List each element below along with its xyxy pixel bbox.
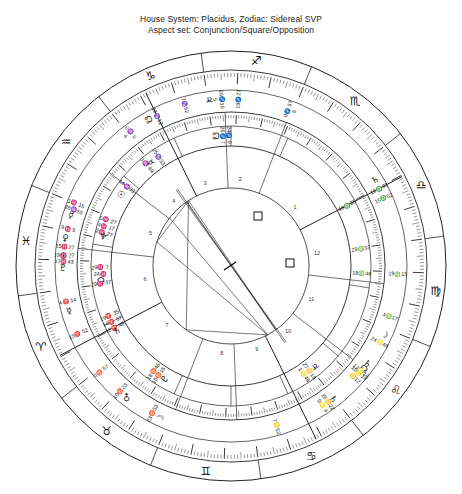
planet-glyph: ☉ <box>115 188 127 201</box>
house-cusp-3 <box>225 112 228 188</box>
outer-label-12-line-2: 4 <box>122 133 129 139</box>
outer-planet-glyph-11: ☿ <box>67 210 76 221</box>
outer-planet-glyph-5: ☽ <box>154 412 167 424</box>
house-number-8: 8 <box>220 350 223 356</box>
inner-label-12-line-1: 19♎35 <box>337 198 357 213</box>
outer-planet-glyph-9: ☉ <box>59 251 68 262</box>
chart-title-block: House System: Placidus, Zodiac: Sidereal… <box>0 14 462 36</box>
inner-planet-glyph-6: ☉ <box>115 188 127 201</box>
planet-glyph: ♂ <box>120 391 133 404</box>
aspect-line <box>170 218 268 335</box>
planet-glyph: ☉ <box>59 251 68 262</box>
planet-glyph: ☽ <box>154 412 167 424</box>
zodiac-sign-aries: ♈ <box>36 340 47 354</box>
zodiac-sign-virgo: ♍ <box>431 284 442 298</box>
outer-label-7-line-1: 15♈ 52 <box>68 327 90 342</box>
inner-label-11-line-1: 29♍37 <box>351 244 371 253</box>
aspect-line <box>186 201 188 330</box>
inner-label-4: 29♓ 37 <box>91 279 112 289</box>
house-number-7: 7 <box>165 322 168 328</box>
house-number-10: 10 <box>285 328 291 334</box>
astrology-chart-page: House System: Placidus, Zodiac: Sidereal… <box>0 0 462 494</box>
planet-glyph: ♀ <box>61 232 70 243</box>
zodiac-sign-capricorn: ♑ <box>145 69 156 83</box>
house-number-11: 11 <box>309 296 315 302</box>
aspect-lines <box>157 189 286 343</box>
house-number-6: 6 <box>143 276 146 282</box>
planet-glyph: ☿ <box>65 305 73 316</box>
outer-label-23: 4♍17 <box>381 311 398 323</box>
outer-label-7: 15♈ 52 <box>68 327 90 342</box>
outer-label-17-line-1: 0♐ 57 <box>282 100 295 119</box>
chart-wheel-svg: ♈♉♊♋♌♍♎♏♐♑♒♓ 123456789101112 26♋220♌ 4♄1… <box>0 44 462 494</box>
title-line-house-system: House System: Placidus, Zodiac: Sidereal… <box>0 14 462 25</box>
aspect-line <box>157 201 189 242</box>
zodiac-sign-sagittarius: ♐ <box>251 54 262 68</box>
house-number-4: 4 <box>172 198 175 204</box>
planet-glyph: ♃ <box>204 95 215 104</box>
house-number-9: 9 <box>255 346 258 352</box>
outer-planet-glyph-6: ♂ <box>120 391 133 404</box>
zodiac-sign-taurus: ♉ <box>101 424 112 438</box>
planet-glyph: ☊ <box>211 132 221 140</box>
inner-label-10: 18♍46 <box>352 270 371 278</box>
outer-label-23-line-1: 4♍17 <box>381 311 398 323</box>
inner-label-12: 19♎35 <box>337 198 357 213</box>
house-cusp-6 <box>78 248 153 257</box>
inner-ring-position-labels: 27♋181♌49♃29♓ 724♓☊18♉4615♉15♇19♈ 3514♈ … <box>91 126 372 385</box>
zodiac-sign-libra: ♎ <box>416 178 427 192</box>
outer-planet-glyph-8: ☿ <box>65 305 73 316</box>
house-cusp-11 <box>293 313 353 359</box>
zodiac-sign-cancer: ♋ <box>306 449 317 463</box>
outer-label-14-line-1: 7♑52 <box>179 97 190 114</box>
outer-label-2: 7♋52 <box>271 418 282 435</box>
outer-label-4: 0♉ 57 <box>92 363 110 379</box>
chart-wheel: ♈♉♊♋♌♍♎♏♐♑♒♓ 123456789101112 26♋220♌ 4♄1… <box>0 44 462 494</box>
inner-label-4-line-1: 29♓ 37 <box>91 279 112 289</box>
outer-label-16: 19♐27 <box>235 90 243 109</box>
zodiac-sign-aquarius: ♒ <box>61 135 72 149</box>
inner-house-cusp-11 <box>323 343 338 356</box>
planet-glyph: ♆ <box>98 231 109 243</box>
planet-glyph: ☿ <box>67 210 76 221</box>
inner-planet-glyph-9: ☊ <box>211 132 221 140</box>
title-line-aspect-set: Aspect set: Conjunction/Square/Oppositio… <box>0 25 462 36</box>
aspect-markers <box>254 212 294 267</box>
inner-house-cusp-12 <box>350 285 370 288</box>
house-number-2: 2 <box>239 176 242 182</box>
inner-label-11: 29♍37 <box>351 244 371 253</box>
zodiac-sign-leo: ♌ <box>391 383 402 397</box>
outer-label-18-line-1: 15♎52 <box>374 192 394 206</box>
aspect-marker-square-2 <box>286 259 294 267</box>
inner-house-cusp-8 <box>174 376 182 394</box>
outer-label-17-line-2: 6 <box>291 109 298 114</box>
inner-label-10-line-1: 18♍46 <box>352 270 371 278</box>
outer-planet-glyph-15: ♃ <box>204 95 215 104</box>
inner-planet-glyph-5: ♆ <box>98 231 109 243</box>
zodiac-sign-scorpio: ♏ <box>350 94 361 108</box>
outer-label-4-line-1: 0♉ 57 <box>92 363 110 379</box>
outer-planet-glyph-10: ♀ <box>61 232 70 243</box>
house-cusp-12 <box>308 275 383 284</box>
inner-house-cusp-2 <box>280 138 288 156</box>
outer-label-14: 7♑52 <box>179 97 190 114</box>
outer-planet-glyph-3: ♇ <box>59 263 68 273</box>
outer-label-2-line-1: 7♋52 <box>271 418 282 435</box>
aspect-line <box>157 242 268 335</box>
outer-label-20-line-1: 19♍15 <box>388 270 407 278</box>
inner-house-cusp-6 <box>93 244 113 247</box>
house-number-5: 5 <box>149 230 152 236</box>
outer-label-18: 15♎52 <box>374 192 394 206</box>
zodiac-sign-gemini: ♊ <box>200 464 211 478</box>
house-number-1: 1 <box>294 204 297 210</box>
outer-label-16-line-1: 19♐27 <box>235 90 243 109</box>
aspect-line <box>186 330 267 335</box>
house-cusp-9 <box>234 344 237 420</box>
outer-planet-glyph-13: ☊ <box>142 114 155 126</box>
planet-glyph: ☊ <box>142 114 155 126</box>
house-number-3: 3 <box>204 180 207 186</box>
outer-label-11: 1♓ 1528♒55 <box>63 197 86 216</box>
outer-label-20: 19♍15 <box>388 270 407 278</box>
zodiac-sign-pisces: ♓ <box>21 234 32 248</box>
planet-glyph: ♇ <box>59 263 68 273</box>
